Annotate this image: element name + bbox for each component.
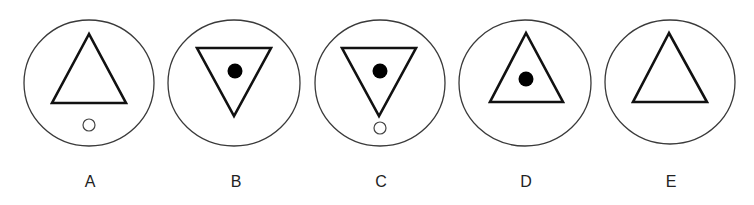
option-label-b: B — [216, 172, 256, 192]
option-label-d: D — [506, 172, 546, 192]
option-label-c: C — [361, 172, 401, 192]
filled-dot-icon — [373, 64, 388, 79]
option-a-figure[interactable] — [24, 20, 154, 146]
filled-dot-icon — [519, 72, 534, 87]
small-ring-icon — [83, 119, 95, 131]
option-d-figure[interactable] — [459, 20, 591, 146]
filled-dot-icon — [228, 64, 243, 79]
option-c-figure[interactable] — [315, 20, 445, 146]
option-e-figure[interactable] — [605, 20, 735, 144]
option-label-a: A — [70, 172, 110, 192]
outer-circle — [168, 20, 300, 146]
option-label-e: E — [651, 172, 691, 192]
small-ring-icon — [374, 122, 386, 134]
outer-circle — [605, 20, 735, 144]
option-b-figure[interactable] — [168, 20, 300, 146]
